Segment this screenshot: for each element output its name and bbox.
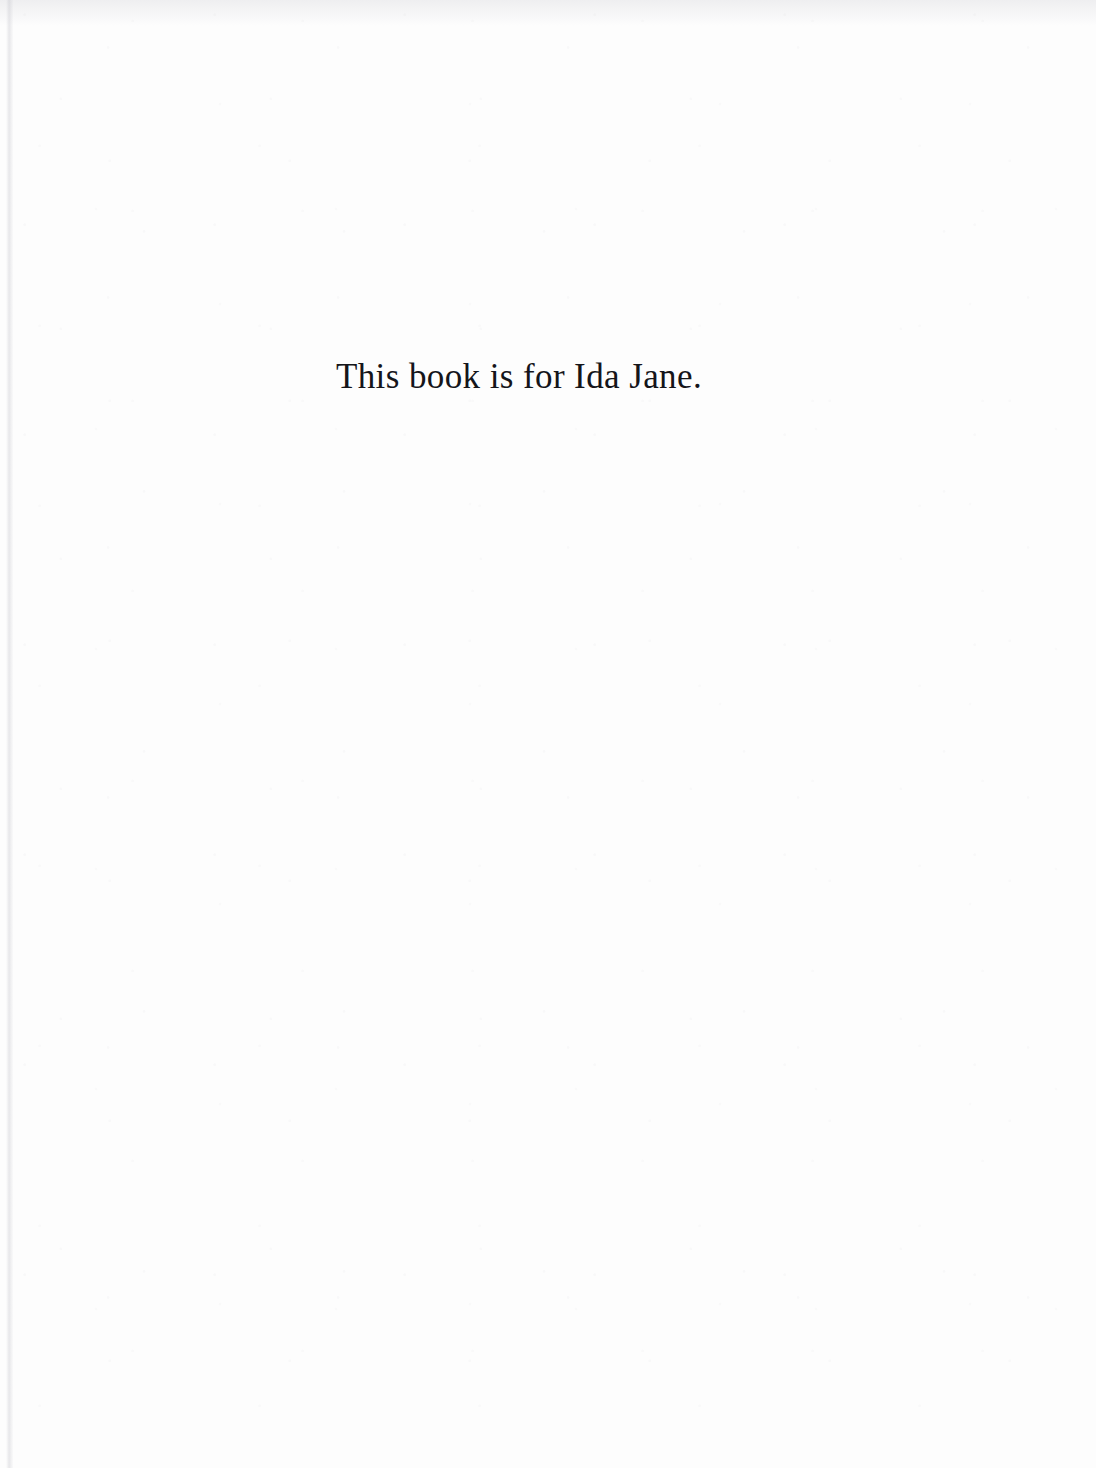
scan-top-shading bbox=[0, 0, 1096, 26]
scan-left-seam-artifact bbox=[6, 0, 13, 1468]
book-page: This book is for Ida Jane. bbox=[0, 0, 1096, 1468]
paper-grain-texture bbox=[0, 0, 1096, 1468]
dedication-text: This book is for Ida Jane. bbox=[0, 355, 1038, 399]
